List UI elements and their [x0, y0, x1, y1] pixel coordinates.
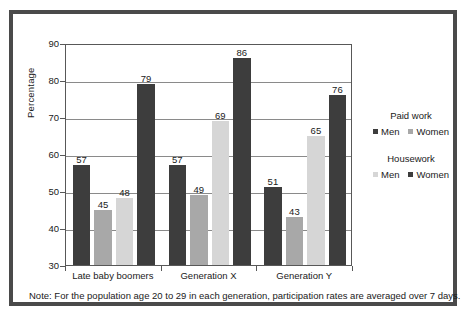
bar-value-label: 76 [323, 85, 353, 95]
legend-group-housework: Housework Men Women [365, 153, 457, 180]
figure-frame: Percentage 30405060708090 57454879574969… [9, 10, 457, 306]
chart-note: Note: For the population age 20 to 29 in… [29, 290, 449, 301]
y-axis-tick-label: 90 [37, 39, 59, 49]
bar-value-label: 45 [88, 200, 118, 210]
x-axis-tick-mark [352, 266, 353, 271]
legend-entry-housework-women[interactable]: Women [408, 170, 449, 180]
bar-value-label: 57 [67, 155, 97, 165]
x-axis-category-label: Late baby boomers [65, 271, 161, 281]
bar-value-label: 48 [110, 188, 140, 198]
bar-value-label: 79 [131, 74, 161, 84]
x-axis-category-label: Generation Y [256, 271, 352, 281]
legend-title-housework: Housework [365, 153, 457, 164]
bar-value-label: 65 [301, 126, 331, 136]
legend-swatch-icon-paid-work-women [408, 129, 413, 134]
bar-value-label: 51 [258, 177, 288, 187]
y-axis-label: Percentage [25, 67, 36, 118]
legend-label-housework-women: Women [416, 170, 449, 180]
bar [94, 210, 112, 266]
legend-label-housework-men: Men [381, 170, 399, 180]
bar [116, 198, 134, 265]
bar [264, 187, 282, 265]
bar [73, 165, 91, 265]
y-axis-tick-label: 70 [37, 113, 59, 123]
y-axis-tick-label: 40 [37, 224, 59, 234]
legend-entry-housework-men[interactable]: Men [373, 170, 399, 180]
y-axis-tick-label: 60 [37, 150, 59, 160]
legend-entry-paid-work-men[interactable]: Men [373, 127, 399, 137]
bar [329, 95, 347, 265]
legend-row-housework: Men Women [365, 170, 457, 180]
bar-value-label: 49 [184, 185, 214, 195]
gridline [66, 82, 351, 83]
legend-row-paid-work: Men Women [365, 127, 457, 137]
bar [137, 84, 155, 265]
legend-swatch-icon-housework-women [408, 172, 413, 177]
y-axis-tick-label: 30 [37, 261, 59, 271]
figure-root: Percentage 30405060708090 57454879574969… [0, 0, 467, 317]
bar [169, 165, 187, 265]
bar [307, 136, 325, 266]
chart-legend: Paid work Men Women Housework [365, 110, 457, 195]
legend-label-paid-work-women: Women [416, 127, 449, 137]
bar [286, 217, 304, 265]
legend-title-paid-work: Paid work [365, 110, 457, 121]
legend-swatch-icon-paid-work-men [373, 129, 378, 134]
legend-label-paid-work-men: Men [381, 127, 399, 137]
bar-value-label: 57 [163, 155, 193, 165]
bar-value-label: 69 [206, 111, 236, 121]
y-axis-tick-label: 80 [37, 76, 59, 86]
legend-entry-paid-work-women[interactable]: Women [408, 127, 449, 137]
bar [212, 121, 230, 265]
bar-value-label: 43 [280, 207, 310, 217]
x-axis-category-label: Generation X [161, 271, 257, 281]
legend-group-paid-work: Paid work Men Women [365, 110, 457, 137]
bar-value-label: 86 [227, 48, 257, 58]
bar [233, 58, 251, 265]
y-axis-tick-label: 50 [37, 187, 59, 197]
legend-swatch-icon-housework-men [373, 172, 378, 177]
bar [190, 195, 208, 265]
plot-area: 574548795749698651436576 [65, 44, 352, 266]
